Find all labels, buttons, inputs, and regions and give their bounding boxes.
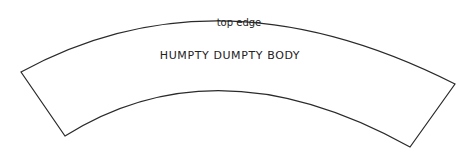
body-pattern-outline	[21, 21, 455, 147]
pattern-diagram: top edge HUMPTY DUMPTY BODY	[0, 0, 468, 157]
top-edge-label: top edge	[217, 17, 262, 28]
body-title-label: HUMPTY DUMPTY BODY	[160, 49, 300, 62]
